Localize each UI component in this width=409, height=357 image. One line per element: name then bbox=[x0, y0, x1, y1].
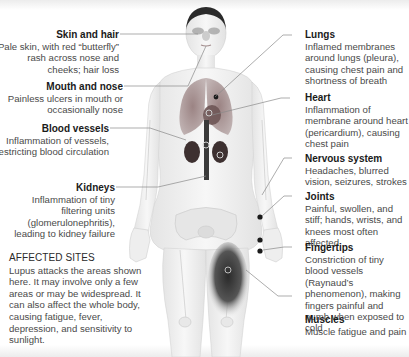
label-title: Blood vessels bbox=[0, 123, 109, 135]
label-text: Inflamed membranes around lungs (pleura)… bbox=[305, 41, 403, 86]
label-text: Muscle fatigue and pain bbox=[305, 326, 406, 337]
label-text: Headaches, blurred vision, seizures, str… bbox=[305, 165, 407, 187]
label-title: Mouth and nose bbox=[5, 81, 123, 93]
affected-sites-text: Lupus attacks the areas shown here. It m… bbox=[9, 265, 141, 346]
label-text: Inflammation of membrane around heart (p… bbox=[305, 104, 408, 149]
affected-sites-heading: AFFECTED SITES bbox=[9, 252, 149, 264]
muscle-highlight bbox=[208, 242, 248, 318]
label-title: Muscles bbox=[305, 314, 409, 326]
label-title: Joints bbox=[305, 191, 409, 203]
label-nervous-system: Nervous system Headaches, blurred vision… bbox=[305, 153, 409, 188]
affected-sites-note: AFFECTED SITES Lupus attacks the areas s… bbox=[9, 252, 149, 346]
label-mouth-and-nose: Mouth and nose Painless ulcers in mouth … bbox=[5, 81, 123, 116]
label-muscles: Muscles Muscle fatigue and pain bbox=[305, 314, 409, 337]
label-title: Skin and hair bbox=[0, 29, 119, 41]
label-skin-and-hair: Skin and hair Pale skin, with red “butte… bbox=[0, 29, 119, 75]
label-heart: Heart Inflammation of membrane around he… bbox=[305, 92, 409, 150]
label-text: Inflammation of tiny filtering units (gl… bbox=[14, 194, 115, 239]
label-title: Fingertips bbox=[305, 242, 409, 254]
label-lungs: Lungs Inflamed membranes around lungs (p… bbox=[305, 29, 409, 87]
label-title: Kidneys bbox=[5, 182, 115, 194]
label-title: Nervous system bbox=[305, 153, 409, 165]
label-blood-vessels: Blood vessels Inflammation of vessels, r… bbox=[0, 123, 109, 158]
label-title: Lungs bbox=[305, 29, 409, 41]
label-text: Pale skin, with red “butterfly” rash acr… bbox=[0, 41, 119, 75]
label-joints: Joints Painful, swollen, and stiff; hand… bbox=[305, 191, 409, 249]
body-silhouette bbox=[130, 7, 283, 357]
label-title: Heart bbox=[305, 92, 409, 104]
label-text: Inflammation of vessels, restricting blo… bbox=[0, 135, 109, 157]
label-text: Painless ulcers in mouth or occasionally… bbox=[8, 93, 123, 115]
label-kidneys: Kidneys Inflammation of tiny filtering u… bbox=[5, 182, 115, 240]
